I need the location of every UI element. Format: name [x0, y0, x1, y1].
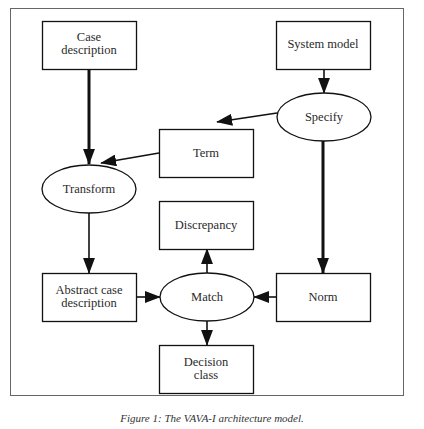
node-match: Match: [160, 273, 254, 321]
node-label: Term: [193, 146, 219, 160]
node-label: Match: [191, 290, 224, 304]
node-discrepancy: Discrepancy: [160, 202, 254, 250]
node-label: description: [61, 296, 117, 310]
node-label: class: [194, 368, 218, 382]
node-label: Specify: [305, 110, 344, 124]
node-abstract-case-description: Abstract case description: [43, 274, 137, 322]
node-label: Abstract case: [56, 283, 123, 297]
node-decision-class: Decision class: [160, 346, 254, 394]
figure-caption: Figure 1: The VAVA-I architecture model.: [0, 412, 424, 424]
node-norm: Norm: [277, 274, 371, 322]
node-transform: Transform: [42, 165, 136, 213]
node-system-model: System model: [277, 22, 371, 70]
architecture-diagram: Case description System model Specify Te…: [0, 0, 424, 429]
node-specify: Specify: [277, 93, 371, 141]
node-case-description: Case description: [43, 22, 137, 70]
edge-term-to-transform: [101, 153, 159, 163]
edge-specify-to-term: [217, 113, 277, 122]
node-label: Transform: [63, 182, 116, 196]
node-term: Term: [160, 130, 254, 178]
node-label: Case: [77, 30, 102, 44]
node-label: Norm: [308, 290, 337, 304]
node-label: description: [61, 43, 117, 57]
node-label: Decision: [184, 355, 229, 369]
node-label: System model: [287, 37, 359, 51]
node-label: Discrepancy: [175, 218, 238, 232]
